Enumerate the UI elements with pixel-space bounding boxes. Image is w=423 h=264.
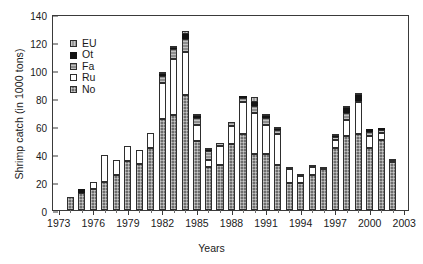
bar-segment-ru-1976	[90, 182, 97, 189]
bar-1990	[251, 101, 258, 210]
bar-segment-fa-1983	[170, 49, 177, 59]
bar-segment-eu-1992	[274, 127, 281, 129]
bar-segment-no-1988	[228, 144, 235, 210]
x-tick-label: 1997	[323, 217, 346, 229]
legend-swatch-fa-icon	[70, 63, 77, 70]
y-tick-label: 60	[36, 123, 53, 134]
bar-segment-fa-1991	[262, 118, 269, 125]
bar-1981	[147, 133, 154, 210]
y-tick-label: 80	[36, 95, 53, 106]
x-tick-mark-minor	[324, 210, 325, 213]
x-tick-mark-minor	[208, 210, 209, 213]
bar-1980	[136, 150, 143, 210]
x-tick-mark-minor	[139, 210, 140, 213]
bar-segment-no-1983	[170, 115, 177, 210]
bar-segment-fa-1986	[205, 151, 212, 159]
bar-segment-ru-1986	[205, 160, 212, 167]
bar-segment-ru-1989	[239, 102, 246, 134]
x-tick-mark	[93, 210, 94, 215]
shrimp-catch-chart: Shrimp catch (in 1000 tons) Years 020406…	[0, 0, 423, 264]
bar-segment-eu-1982	[159, 72, 166, 74]
bar-segment-ru-1999	[355, 102, 362, 134]
bar-2002	[389, 160, 396, 210]
bar-segment-ru-1993	[286, 169, 293, 183]
bar-1986	[205, 148, 212, 210]
bar-segment-ru-1980	[136, 150, 143, 164]
x-tick-mark-minor	[347, 210, 348, 213]
bar-segment-no-1989	[239, 134, 246, 210]
bar-segment-no-2001	[378, 140, 385, 210]
bar-segment-no-1985	[193, 141, 200, 210]
bar-segment-fa-1992	[274, 130, 281, 134]
bar-1993	[286, 168, 293, 210]
bar-segment-no-1993	[286, 183, 293, 210]
y-tick-mark	[53, 16, 58, 17]
x-tick-label: 1979	[116, 217, 139, 229]
bar-segment-eu-1991	[262, 114, 269, 116]
bar-segment-no-1991	[262, 154, 269, 210]
bar-2001	[378, 129, 385, 210]
bar-segment-ru-1987	[216, 146, 223, 166]
bar-segment-ru-2001	[378, 133, 385, 140]
bar-segment-fa-1987	[216, 143, 223, 146]
chart-legend: EUOtFaRuNo	[70, 38, 97, 95]
x-tick-label: 1991	[254, 217, 277, 229]
x-tick-mark	[197, 210, 198, 215]
y-tick-mark	[53, 212, 58, 213]
bar-segment-ru-1991	[262, 125, 269, 154]
x-tick-mark	[370, 210, 371, 215]
bar-segment-ru-1982	[159, 83, 166, 119]
bar-segment-ot-1975	[78, 189, 85, 193]
bar-1987	[216, 143, 223, 210]
bar-segment-ru-1990	[251, 113, 258, 154]
bar-segment-ot-2001	[378, 128, 385, 130]
x-tick-mark-minor	[312, 210, 313, 213]
bar-1983	[170, 46, 177, 210]
bar-2000	[366, 129, 373, 210]
x-tick-mark	[59, 210, 60, 215]
bar-segment-fa-1995	[309, 165, 316, 167]
bar-1977	[101, 155, 108, 210]
bar-1988	[228, 122, 235, 210]
bar-segment-ru-1981	[147, 133, 154, 148]
x-tick-mark	[266, 210, 267, 215]
bar-segment-no-1974	[67, 197, 74, 210]
bar-segment-no-1992	[274, 165, 281, 210]
x-tick-label: 1988	[220, 217, 243, 229]
bar-1994	[297, 174, 304, 210]
legend-item-no: No	[70, 84, 97, 95]
x-tick-mark-minor	[70, 210, 71, 213]
bar-1995	[309, 165, 316, 210]
bar-segment-fa-1994	[297, 174, 304, 177]
legend-swatch-no-icon	[70, 86, 77, 93]
bar-1999	[355, 94, 362, 210]
bar-segment-eu-1998	[343, 106, 350, 108]
y-tick-mark	[53, 128, 58, 129]
x-tick-mark-minor	[289, 210, 290, 213]
x-tick-label: 1982	[151, 217, 174, 229]
x-tick-mark-minor	[278, 210, 279, 213]
y-tick-mark	[53, 184, 58, 185]
bar-segment-ru-1979	[124, 146, 131, 161]
y-axis-title: Shrimp catch (in 1000 tons)	[13, 19, 25, 209]
bar-segment-ru-1998	[343, 120, 350, 135]
bar-1989	[239, 97, 246, 210]
y-tick-mark	[53, 156, 58, 157]
bar-segment-fa-2002	[389, 159, 396, 161]
x-tick-label: 1985	[185, 217, 208, 229]
legend-swatch-eu-icon	[70, 40, 77, 47]
bar-segment-no-1986	[205, 167, 212, 210]
legend-label: Ru	[82, 72, 95, 83]
bar-1975	[78, 189, 85, 210]
bar-segment-ot-1984	[182, 34, 189, 40]
x-tick-mark	[404, 210, 405, 215]
bar-segment-ru-1994	[297, 176, 304, 183]
bar-segment-no-1999	[355, 134, 362, 210]
x-tick-label: 1973	[47, 217, 70, 229]
x-tick-mark-minor	[243, 210, 244, 213]
bar-1996	[320, 167, 327, 210]
bar-segment-ru-1985	[193, 125, 200, 142]
x-tick-mark	[162, 210, 163, 215]
x-tick-mark-minor	[151, 210, 152, 213]
bar-segment-eu-1986	[205, 148, 212, 150]
